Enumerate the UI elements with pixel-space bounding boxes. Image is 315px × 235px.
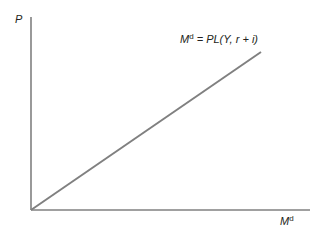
x-axis-label: Md [280, 214, 294, 227]
y-axis-label: P [15, 13, 22, 25]
curve-label-main: M [180, 33, 189, 45]
curve-equation-label: Md = PL(Y, r + i) [180, 32, 258, 45]
curve-label-rest: = PL(Y, r + i) [194, 33, 258, 45]
chart-canvas [0, 0, 315, 235]
x-axis-label-main: M [280, 215, 289, 227]
money-demand-curve [31, 52, 261, 210]
x-axis-label-sup: d [289, 214, 293, 223]
